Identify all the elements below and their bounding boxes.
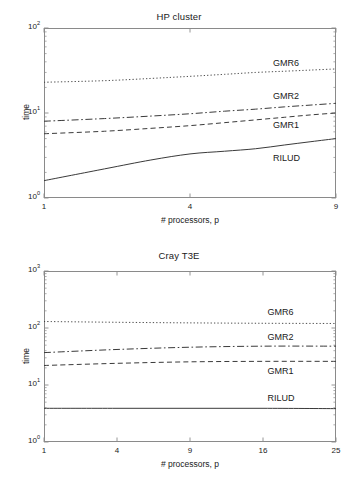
series-label-rilud: RILUD: [273, 153, 300, 163]
x-axis-tick-label: 1: [29, 202, 59, 211]
x-axis-tick-label: 16: [248, 446, 278, 455]
y-axis-tick-label: 100: [17, 192, 40, 201]
y-axis-tick-label: 103: [17, 265, 40, 274]
y-axis-tick-label: 101: [17, 107, 40, 116]
y-axis-label: time: [21, 326, 31, 386]
x-axis-tick-label: 4: [102, 446, 132, 455]
chart-panel-cray-t3e: Cray T3E time # processors, p 1001011021…: [0, 244, 358, 487]
series-label-gmr1: GMR1: [273, 120, 299, 130]
y-axis-tick-label: 101: [17, 379, 40, 388]
series-line-gmr1: [44, 361, 336, 365]
x-axis-label: # processors, p: [44, 459, 336, 469]
figure: HP cluster time # processors, p 10010110…: [0, 0, 358, 487]
x-axis-label: # processors, p: [44, 215, 336, 225]
series-label-rilud: RILUD: [268, 393, 295, 403]
series-label-gmr2: GMR2: [268, 332, 294, 342]
series-label-gmr1: GMR1: [268, 366, 294, 376]
series-label-gmr2: GMR2: [273, 91, 299, 101]
series-line-gmr2: [44, 346, 336, 353]
series-label-gmr6: GMR6: [273, 58, 299, 68]
y-axis-tick-label: 102: [17, 22, 40, 31]
series-line-gmr6: [44, 69, 336, 82]
series-line-gmr2: [44, 103, 336, 121]
y-axis-tick-label: 100: [17, 436, 40, 445]
chart-panel-hp-cluster: HP cluster time # processors, p 10010110…: [0, 0, 358, 243]
x-axis-tick-label: 4: [175, 202, 205, 211]
series-label-gmr6: GMR6: [268, 307, 294, 317]
x-axis-tick-label: 9: [321, 202, 351, 211]
x-axis-tick-label: 25: [321, 446, 351, 455]
y-axis-tick-label: 102: [17, 322, 40, 331]
x-axis-tick-label: 9: [175, 446, 205, 455]
x-axis-tick-label: 1: [29, 446, 59, 455]
series-line-gmr6: [44, 322, 336, 324]
